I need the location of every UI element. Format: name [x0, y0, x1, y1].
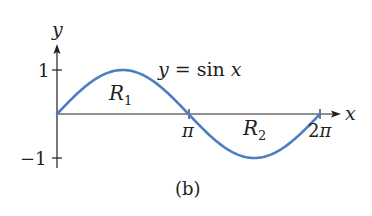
region-label-r1: R1	[108, 81, 132, 108]
region-label-r2: R2	[242, 116, 266, 143]
x-tick-label-2pi: 2π	[308, 120, 332, 141]
x-axis-label: x	[345, 102, 356, 124]
curve-label: y = sin x	[157, 58, 242, 80]
x-tick-label-pi: π	[181, 120, 195, 141]
y-tick-label-neg1: −1	[20, 148, 47, 169]
y-tick-label-1: 1	[38, 60, 49, 81]
figure-caption: (b)	[175, 178, 201, 199]
sine-diagram: y x 1 −1 π 2π y = sin x R1 R2 (b)	[0, 0, 372, 216]
y-axis-label: y	[51, 18, 63, 40]
